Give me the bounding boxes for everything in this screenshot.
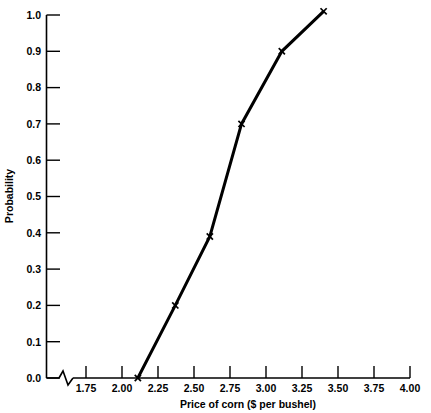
y-tick-label: 0.8 bbox=[26, 81, 41, 93]
x-tick-label: 4.00 bbox=[400, 382, 421, 394]
x-tick-label: 2.00 bbox=[112, 382, 133, 394]
y-tick-label: 1.0 bbox=[26, 9, 41, 21]
x-tick-label: 3.00 bbox=[256, 382, 277, 394]
x-tick-label: 2.25 bbox=[148, 382, 169, 394]
x-tick-label: 2.75 bbox=[220, 382, 241, 394]
y-tick-label: 0.5 bbox=[26, 190, 41, 202]
x-axis-title: Price of corn ($ per bushel) bbox=[180, 398, 316, 410]
chart-canvas: 1.0 0.9 0.8 0.7 0.6 0.5 0.4 0.3 0.2 0.1 … bbox=[0, 0, 431, 413]
y-tick-label: 0.0 bbox=[26, 372, 41, 384]
x-tick-label: 3.25 bbox=[292, 382, 313, 394]
chart-background bbox=[0, 0, 431, 413]
x-tick-label: 3.50 bbox=[328, 382, 349, 394]
y-tick-label: 0.2 bbox=[26, 299, 41, 311]
x-tick-label: 3.75 bbox=[364, 382, 385, 394]
y-tick-label: 0.1 bbox=[26, 336, 41, 348]
x-tick-label: 1.75 bbox=[76, 382, 97, 394]
y-tick-label: 0.6 bbox=[26, 154, 41, 166]
y-tick-label: 0.4 bbox=[26, 227, 41, 239]
y-tick-label: 0.7 bbox=[26, 118, 41, 130]
y-axis-title: Probability bbox=[3, 169, 15, 223]
y-tick-label: 0.9 bbox=[26, 45, 41, 57]
chart-figure: 1.0 0.9 0.8 0.7 0.6 0.5 0.4 0.3 0.2 0.1 … bbox=[0, 0, 431, 413]
x-tick-label: 2.50 bbox=[184, 382, 205, 394]
y-tick-label: 0.3 bbox=[26, 263, 41, 275]
